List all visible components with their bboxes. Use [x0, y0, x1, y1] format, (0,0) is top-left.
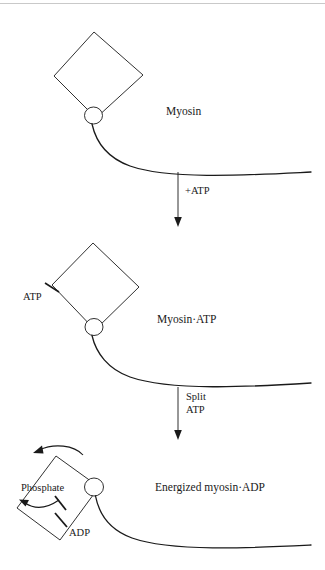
- myosin-tail-filament-2: [92, 336, 311, 387]
- myosin-head-diamond-2: [52, 243, 139, 330]
- annotation-label-phosphate: Phosphate: [21, 482, 64, 493]
- myosin-atp-cycle-figure: Myosin +ATP ATP Myosin·ATP Split ATP Pho…: [0, 0, 325, 570]
- annotation-label-adp: ADP: [69, 527, 90, 538]
- myosin-tail-filament-3: [96, 496, 312, 548]
- stage-label-myosin-atp: Myosin·ATP: [157, 313, 216, 325]
- myosin-hinge-circle-1: [85, 107, 103, 124]
- adp-binding-tick-upper: [55, 496, 66, 510]
- myosin-hinge-circle-3: [85, 478, 104, 496]
- transition-label-split: Split: [186, 391, 206, 403]
- stage-3-energized-myosin-adp-group: [17, 446, 311, 548]
- head-rotation-curved-arrow: [39, 446, 83, 455]
- transition-add-atp-arrow: [174, 172, 182, 227]
- transition-split-atp-arrow: [174, 387, 182, 440]
- myosin-hinge-circle-2: [85, 319, 103, 336]
- myosin-head-diamond-1: [54, 32, 143, 118]
- head-rotation-arrowhead: [33, 446, 44, 454]
- phosphate-release-curved-arrow: [25, 500, 59, 507]
- transition-label-add-atp: +ATP: [185, 185, 210, 196]
- myosin-tail-filament-1: [92, 124, 311, 175]
- adp-binding-tick-lower: [55, 513, 67, 527]
- atp-binding-tick: [45, 283, 59, 292]
- transition-label-atp: ATP: [186, 404, 205, 416]
- stage-label-energized-myosin-adp: Energized myosin·ADP: [155, 481, 265, 493]
- annotation-label-atp: ATP: [23, 291, 42, 302]
- stage-1-myosin-group: [54, 32, 311, 175]
- stage-label-myosin: Myosin: [166, 105, 201, 117]
